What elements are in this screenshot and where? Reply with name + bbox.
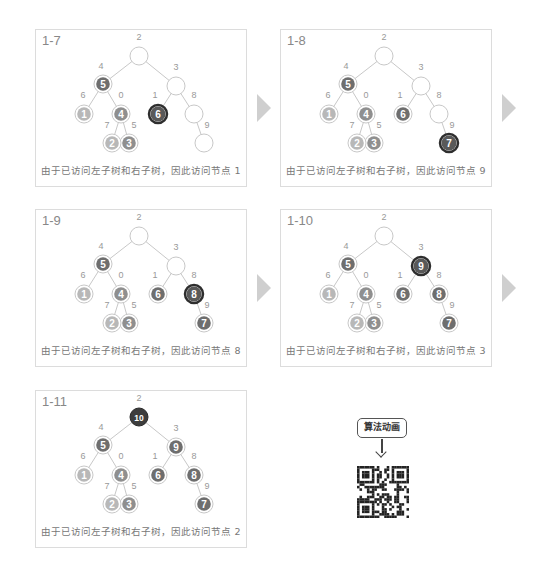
tree-node-8: 88 [185, 270, 203, 303]
node-id-label: 1 [152, 451, 157, 461]
node-id-label: 7 [104, 120, 109, 130]
tree-node-1: 16 [149, 90, 167, 123]
node-id-label: 6 [325, 90, 330, 100]
node-value: 5 [345, 259, 351, 270]
tree-node-0: 04 [357, 270, 375, 303]
node-value: 3 [371, 318, 377, 329]
tree-node-8: 8 [185, 90, 203, 123]
node-id-label: 9 [449, 120, 454, 130]
node-id-label: 5 [376, 300, 381, 310]
node-id-label: 5 [131, 300, 136, 310]
next-step-arrow-icon [257, 274, 271, 302]
node-id-label: 8 [191, 90, 196, 100]
node-value: 1 [81, 289, 87, 300]
node-value: 2 [109, 138, 115, 149]
node-id-label: 4 [98, 61, 103, 71]
qr-code-icon[interactable] [357, 466, 409, 518]
node-value: 6 [155, 470, 161, 481]
tree-node-0: 04 [112, 90, 130, 123]
node-id-label: 7 [104, 481, 109, 491]
tree-node-2: 2 [130, 212, 148, 245]
arrow-down-head-icon [375, 446, 386, 457]
tree-node-7: 72 [103, 481, 121, 513]
node-id-label: 6 [80, 451, 85, 461]
tree-node-4: 45 [94, 61, 112, 93]
node-id-label: 7 [349, 300, 354, 310]
node-id-label: 2 [136, 32, 141, 42]
tree-node-5: 53 [120, 120, 138, 152]
tree-node-4: 45 [94, 422, 112, 454]
node-id-label: 0 [363, 270, 368, 280]
step-panel-1-11: 1-11041621039455361728897由于已访问左子树和右子树，因此… [35, 390, 247, 548]
node-value: 10 [134, 413, 144, 423]
node-value: 1 [326, 109, 332, 120]
node-id-label: 8 [436, 90, 441, 100]
node-value: 3 [371, 138, 377, 149]
node-value: 8 [191, 289, 197, 300]
node-id-label: 2 [381, 212, 386, 222]
node-id-label: 3 [173, 423, 178, 433]
node-id-label: 9 [204, 300, 209, 310]
tree-node-0: 04 [112, 451, 130, 484]
tree-node-0: 04 [112, 270, 130, 303]
algorithm-animation-label: 算法动画 [357, 418, 407, 438]
tree-node-3: 3 [167, 62, 185, 95]
tree-node-3: 39 [167, 423, 185, 456]
node-value: 6 [155, 289, 161, 300]
tree-node-5: 53 [365, 120, 383, 152]
tree-node-7: 72 [103, 120, 121, 152]
tree-node-6: 61 [320, 90, 338, 123]
node-value: 8 [191, 470, 197, 481]
node-value: 6 [400, 289, 406, 300]
tree-node-8: 88 [185, 451, 203, 484]
node-value: 5 [345, 79, 351, 90]
node-id-label: 4 [98, 422, 103, 432]
node-id-label: 2 [136, 212, 141, 222]
node-value: 3 [126, 318, 132, 329]
node-id-label: 8 [191, 270, 196, 280]
node-id-label: 3 [173, 62, 178, 72]
tree-node-5: 53 [365, 300, 383, 332]
tree-node-5: 53 [120, 481, 138, 513]
node-id-label: 9 [204, 481, 209, 491]
tree-node-7: 72 [348, 120, 366, 152]
step-caption: 由于已访问左子树和右子树，因此访问节点 8 [36, 343, 246, 357]
node-id-label: 5 [131, 120, 136, 130]
node-value: 2 [354, 138, 360, 149]
step-caption: 由于已访问左子树和右子树，因此访问节点 9 [281, 163, 491, 177]
node-id-label: 7 [349, 120, 354, 130]
tree-node-2: 2 [375, 32, 393, 65]
next-step-arrow-icon [502, 274, 516, 302]
tree-node-1: 16 [394, 270, 412, 303]
step-panel-1-9: 1-9041623455361728897由于已访问左子树和右子树，因此访问节点… [35, 209, 247, 367]
node-id-label: 8 [191, 451, 196, 461]
node-id-label: 1 [397, 90, 402, 100]
node-value: 1 [81, 109, 87, 120]
node-value: 4 [363, 109, 369, 120]
tree-node-1: 16 [394, 90, 412, 123]
node-id-label: 0 [118, 270, 123, 280]
node-id-label: 6 [325, 270, 330, 280]
tree-node-4: 45 [339, 241, 357, 273]
node-value: 4 [118, 109, 124, 120]
step-caption: 由于已访问左子树和右子树，因此访问节点 2 [36, 524, 246, 538]
tree-node-7: 72 [348, 300, 366, 332]
tree-node-3: 3 [167, 242, 185, 275]
node-value: 9 [418, 261, 424, 272]
tree-node-6: 61 [75, 90, 93, 123]
node-value: 1 [326, 289, 332, 300]
step-caption: 由于已访问左子树和右子树，因此访问节点 3 [281, 343, 491, 357]
node-id-label: 4 [343, 61, 348, 71]
node-value: 3 [126, 138, 132, 149]
tree-node-8: 8 [430, 90, 448, 123]
node-value: 2 [354, 318, 360, 329]
tree-node-4: 45 [339, 61, 357, 93]
step-panel-1-10: 1-100416239455361728897由于已访问左子树和右子树，因此访问… [280, 209, 492, 367]
tree-node-1: 16 [149, 270, 167, 303]
tree-node-1: 16 [149, 451, 167, 484]
tree-node-2: 2 [375, 212, 393, 245]
node-id-label: 6 [80, 270, 85, 280]
step-panel-1-8: 1-804162345536172897由于已访问左子树和右子树，因此访问节点 … [280, 29, 492, 187]
tree-node-8: 88 [430, 270, 448, 303]
node-value: 7 [201, 318, 207, 329]
